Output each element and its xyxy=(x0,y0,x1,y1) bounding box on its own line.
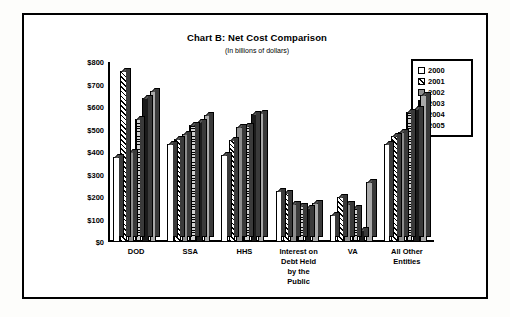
bar-side-face xyxy=(256,111,261,237)
bar-side-face xyxy=(133,149,138,237)
bar-side-face xyxy=(140,116,145,237)
bar-side-face xyxy=(119,154,124,238)
bar-side-face xyxy=(411,109,416,238)
bar-side-face xyxy=(242,124,247,237)
bar-side-face xyxy=(389,141,394,237)
y-tick-label: $600 xyxy=(87,103,104,112)
bar-side-face xyxy=(288,190,293,238)
bar-side-face xyxy=(357,205,362,237)
bar-2000 xyxy=(113,157,120,243)
y-tick-label: $800 xyxy=(87,58,104,67)
bar-side-face xyxy=(281,188,286,237)
bar-2000 xyxy=(330,215,337,242)
plot-area xyxy=(109,62,434,242)
bar-2000 xyxy=(384,144,391,242)
bar-group xyxy=(163,62,217,242)
bar-side-face xyxy=(126,68,131,237)
bar-group xyxy=(272,62,326,242)
x-axis-label: All Other Entities xyxy=(372,247,442,267)
legend-item-2000: 2000 xyxy=(418,65,467,76)
bar-side-face xyxy=(350,201,355,237)
y-tick-label: $200 xyxy=(87,193,104,202)
bar-side-face xyxy=(173,141,178,237)
y-tick-label: $400 xyxy=(87,148,104,157)
bar-side-face xyxy=(343,194,348,237)
bar-side-face xyxy=(318,200,323,237)
y-tick-label: $0 xyxy=(96,238,104,247)
bar-side-face xyxy=(372,179,377,237)
y-tick-label: $100 xyxy=(87,215,104,224)
y-tick-label: $500 xyxy=(87,125,104,134)
chart-title: Chart B: Net Cost Comparison xyxy=(24,32,490,43)
bar-side-face xyxy=(180,136,185,238)
legend-swatch-2000 xyxy=(418,67,425,74)
bar-2000 xyxy=(167,144,174,242)
y-tick-label: $700 xyxy=(87,80,104,89)
bar-side-face xyxy=(303,203,308,237)
bar-side-face xyxy=(263,110,268,237)
y-tick-label: $300 xyxy=(87,170,104,179)
bar-side-face xyxy=(249,123,254,237)
bar-side-face xyxy=(397,133,402,237)
legend-item-2001: 2001 xyxy=(418,76,467,87)
legend-label: 2001 xyxy=(428,77,445,86)
bar-side-face xyxy=(148,95,153,237)
bar-side-face xyxy=(404,129,409,237)
legend-label: 2000 xyxy=(428,66,445,75)
bar-side-face xyxy=(419,106,424,237)
bar-side-face xyxy=(202,119,207,237)
legend-swatch-2001 xyxy=(418,78,425,85)
y-axis-ticks: $800$700$600$500$400$300$200$100$0 xyxy=(58,62,104,242)
bar-2000 xyxy=(276,191,283,242)
chart-frame: Chart B: Net Cost Comparison (In billion… xyxy=(22,13,488,299)
bar-group xyxy=(109,62,163,242)
bar-side-face xyxy=(209,112,214,237)
bar-side-face xyxy=(234,137,239,237)
bar-side-face xyxy=(227,152,232,237)
bar-side-face xyxy=(364,227,369,237)
bar-side-face xyxy=(310,205,315,237)
bar-side-face xyxy=(155,88,160,237)
bar-side-face xyxy=(335,212,340,237)
bar-side-face xyxy=(296,201,301,237)
bar-2000 xyxy=(221,155,228,242)
chart-page: Chart B: Net Cost Comparison (In billion… xyxy=(0,0,510,317)
chart-subtitle: (In billions of dollars) xyxy=(24,47,490,54)
bar-group xyxy=(326,62,380,242)
bar-side-face xyxy=(426,92,431,237)
bar-side-face xyxy=(187,131,192,237)
bar-side-face xyxy=(195,122,200,237)
bar-group xyxy=(217,62,271,242)
